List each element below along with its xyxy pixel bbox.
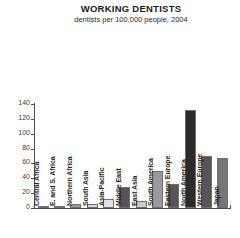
bar-slot: Japan <box>215 104 231 208</box>
y-axis-tick-label: 100 <box>18 129 30 136</box>
y-axis-tick-mark <box>31 208 35 209</box>
bar-category-label: South Asia <box>82 171 89 206</box>
bar-category-label: Asia-Pacific <box>98 168 105 207</box>
bar-category-label: North America <box>180 159 187 206</box>
y-axis-tick-label: 0 <box>26 203 30 210</box>
bar-category-label: Northern Africa <box>66 156 73 206</box>
y-axis-tick-label: 40 <box>22 173 30 180</box>
chart-subtitle: dentists per 100,000 people, 2004 <box>22 15 240 25</box>
working-dentists-bar-chart: WORKING DENTISTS dentists per 100,000 pe… <box>0 0 240 238</box>
chart-title-block: WORKING DENTISTS dentists per 100,000 pe… <box>0 3 240 25</box>
bar-category-label: Central Africa <box>33 162 40 206</box>
bar-category-label: Western Europe <box>196 154 203 206</box>
y-axis-tick-label: 20 <box>22 188 30 195</box>
bar-category-label: E. and S. Africa <box>49 157 56 207</box>
bar-category-label: South America <box>147 158 154 206</box>
page-title: WORKING DENTISTS <box>22 3 240 14</box>
bar-category-label: Middle East <box>115 168 122 206</box>
y-axis-tick-label: 60 <box>22 158 30 165</box>
bar-category-label: East Asia <box>131 176 138 206</box>
bar-category-label: Eastern Europe <box>164 156 171 206</box>
y-axis-tick-label: 140 <box>18 99 30 106</box>
bar[interactable] <box>38 206 49 208</box>
bar[interactable] <box>54 206 65 208</box>
bar-category-label: Japan <box>213 186 220 206</box>
y-axis-tick-label: 120 <box>18 114 30 121</box>
bars-layer: Central AfricaE. and S. AfricaNorthern A… <box>35 104 231 208</box>
y-axis-tick-label: 80 <box>22 144 30 151</box>
x-axis-line <box>34 208 231 209</box>
